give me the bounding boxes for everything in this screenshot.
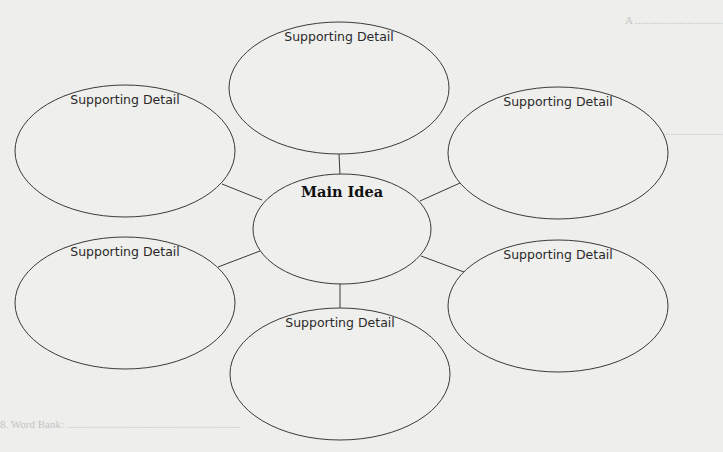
supporting-detail-label: Supporting Detail [503, 247, 613, 262]
supporting-detail-node-bottom[interactable]: Supporting Detail [230, 308, 450, 440]
supporting-detail-node-top-right[interactable]: Supporting Detail [448, 87, 668, 219]
supporting-detail-node-top[interactable]: Supporting Detail [229, 22, 449, 154]
supporting-detail-label: Supporting Detail [70, 92, 180, 107]
connector-top-left [222, 184, 262, 200]
supporting-detail-label: Supporting Detail [70, 244, 180, 259]
connector-bottom-left [218, 251, 260, 267]
supporting-detail-node-bottom-right[interactable]: Supporting Detail [448, 240, 668, 372]
supporting-detail-label: Supporting Detail [284, 29, 394, 44]
supporting-detail-label: Supporting Detail [503, 94, 613, 109]
connector-top [339, 154, 340, 175]
connector-top-right [420, 183, 460, 201]
supporting-detail-label: Supporting Detail [285, 315, 395, 330]
main-idea-node[interactable]: Main Idea [253, 174, 431, 284]
supporting-detail-node-bottom-left[interactable]: Supporting Detail [15, 237, 235, 369]
connector-bottom-right [421, 256, 464, 272]
main-idea-label: Main Idea [301, 183, 384, 200]
supporting-detail-node-top-left[interactable]: Supporting Detail [15, 85, 235, 217]
